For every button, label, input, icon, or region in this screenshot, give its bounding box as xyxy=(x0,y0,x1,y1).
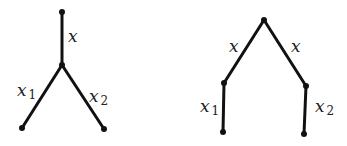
label-x2-base: x xyxy=(315,96,325,116)
label-x2-base: x xyxy=(89,86,99,106)
node-leaf2 xyxy=(101,126,107,132)
label-x2-sub: 2 xyxy=(101,94,109,108)
node-leaf1 xyxy=(220,129,226,135)
edge-right-leaf2 xyxy=(304,86,306,134)
tree-diagrams: x x1 x2 x x x1 x2 xyxy=(0,0,347,146)
label-x2: x2 xyxy=(89,86,108,108)
label-x: x xyxy=(68,26,78,46)
node-leaf1 xyxy=(19,125,25,131)
node-root xyxy=(261,17,267,23)
label-x1: x1 xyxy=(17,80,36,102)
node-leaf2 xyxy=(301,131,307,137)
node-junction xyxy=(59,62,65,68)
node-right xyxy=(303,83,309,89)
node-left xyxy=(221,80,227,86)
label-x1-sub: 1 xyxy=(212,104,220,118)
label-x1-base: x xyxy=(17,80,27,100)
label-x1-base: x xyxy=(200,96,210,116)
node-top xyxy=(59,9,65,15)
label-x2-sub: 2 xyxy=(327,104,335,118)
tree-right-nodes xyxy=(220,17,309,137)
label-x2: x2 xyxy=(315,96,334,118)
label-x1: x1 xyxy=(200,96,219,118)
label-x-right: x xyxy=(291,36,301,56)
tree-left xyxy=(22,12,104,129)
diagram-canvas: x x1 x2 x x x1 x2 xyxy=(0,0,347,146)
edge-left-leaf1 xyxy=(223,83,224,132)
label-x-left: x xyxy=(229,36,239,56)
label-x1-sub: 1 xyxy=(29,88,37,102)
